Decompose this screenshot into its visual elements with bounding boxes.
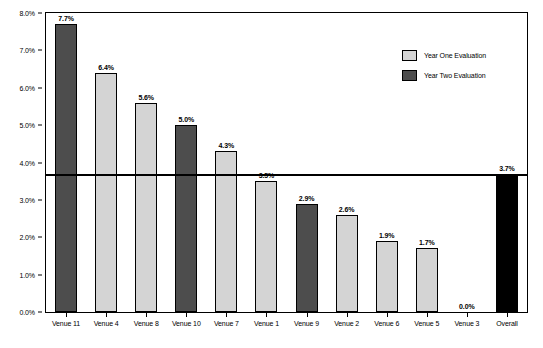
bar-value-label: 5.6% bbox=[138, 94, 154, 101]
x-tick-mark bbox=[186, 313, 187, 317]
legend-swatch-year-one bbox=[402, 50, 417, 61]
x-tick-label: Venue 5 bbox=[414, 320, 439, 327]
x-tick-label: Venue 9 bbox=[294, 320, 319, 327]
bar-chart: 0.0%1.0%2.0%3.0%4.0%5.0%6.0%7.0%8.0% 7.7… bbox=[0, 0, 543, 348]
y-tick-label: 0.0% bbox=[19, 309, 35, 316]
x-tick-label: Overall bbox=[496, 320, 517, 327]
x-tick-mark bbox=[467, 313, 468, 317]
bar-group: 6.4% bbox=[86, 13, 126, 312]
bar-group: 2.9% bbox=[287, 13, 327, 312]
x-tick-label: Venue 11 bbox=[52, 320, 80, 327]
bar[interactable] bbox=[296, 204, 318, 312]
y-tick-mark bbox=[38, 162, 42, 163]
y-tick-label: 4.0% bbox=[19, 159, 35, 166]
x-tick-mark bbox=[347, 313, 348, 317]
bar-value-label: 2.6% bbox=[339, 206, 355, 213]
bar-group: 5.6% bbox=[126, 13, 166, 312]
y-tick-mark bbox=[38, 274, 42, 275]
bar[interactable] bbox=[496, 174, 518, 312]
y-tick-mark bbox=[38, 87, 42, 88]
legend-item-year-two: Year Two Evaluation bbox=[402, 70, 486, 81]
y-tick-mark bbox=[38, 199, 42, 200]
reference-line bbox=[45, 174, 528, 176]
x-tick-label: Venue 6 bbox=[374, 320, 399, 327]
x-tick-mark bbox=[66, 313, 67, 317]
y-tick-mark bbox=[38, 237, 42, 238]
x-tick-label: Venue 4 bbox=[94, 320, 119, 327]
legend-item-year-one: Year One Evaluation bbox=[402, 50, 486, 61]
x-tick-mark bbox=[146, 313, 147, 317]
x-axis-ticks bbox=[45, 313, 528, 317]
bar[interactable] bbox=[55, 24, 77, 312]
bar-group: 1.9% bbox=[367, 13, 407, 312]
legend-label-year-one: Year One Evaluation bbox=[424, 52, 486, 59]
bar-value-label: 0.0% bbox=[459, 303, 475, 310]
bar-group: 4.3% bbox=[206, 13, 246, 312]
y-tick-mark bbox=[38, 50, 42, 51]
bar-value-label: 5.0% bbox=[179, 116, 195, 123]
bar-value-label: 3.7% bbox=[499, 165, 515, 172]
x-tick-label: Venue 3 bbox=[454, 320, 479, 327]
bar-value-label: 7.7% bbox=[58, 15, 74, 22]
bar[interactable] bbox=[376, 241, 398, 312]
bar-value-label: 6.4% bbox=[98, 64, 114, 71]
x-tick-mark bbox=[266, 313, 267, 317]
y-tick-label: 7.0% bbox=[19, 47, 35, 54]
legend-label-year-two: Year Two Evaluation bbox=[424, 72, 486, 79]
x-tick-mark bbox=[106, 313, 107, 317]
bar-group: 7.7% bbox=[46, 13, 86, 312]
y-axis: 0.0%1.0%2.0%3.0%4.0%5.0%6.0%7.0%8.0% bbox=[0, 12, 42, 313]
y-tick-mark bbox=[38, 125, 42, 126]
y-tick-label: 2.0% bbox=[19, 234, 35, 241]
x-tick-label: Venue 1 bbox=[254, 320, 279, 327]
bar-group: 5.0% bbox=[166, 13, 206, 312]
bar[interactable] bbox=[416, 248, 438, 312]
legend-swatch-year-two bbox=[402, 70, 417, 81]
x-tick-label: Venue 7 bbox=[214, 320, 239, 327]
legend: Year One Evaluation Year Two Evaluation bbox=[402, 50, 486, 90]
y-tick-mark bbox=[38, 312, 42, 313]
y-tick-label: 3.0% bbox=[19, 196, 35, 203]
bar[interactable] bbox=[175, 125, 197, 312]
bar-value-label: 2.9% bbox=[299, 195, 315, 202]
y-tick-mark bbox=[38, 13, 42, 14]
x-axis-labels: Venue 11Venue 4Venue 8Venue 10Venue 7Ven… bbox=[45, 320, 528, 334]
bar[interactable] bbox=[336, 215, 358, 312]
x-tick-mark bbox=[507, 313, 508, 317]
y-tick-label: 8.0% bbox=[19, 10, 35, 17]
y-tick-label: 6.0% bbox=[19, 84, 35, 91]
bar-value-label: 1.7% bbox=[419, 239, 435, 246]
bar[interactable] bbox=[135, 103, 157, 312]
y-tick-label: 5.0% bbox=[19, 122, 35, 129]
bar-group: 3.7% bbox=[487, 13, 527, 312]
x-tick-label: Venue 8 bbox=[134, 320, 159, 327]
bar-group: 2.6% bbox=[327, 13, 367, 312]
x-tick-mark bbox=[387, 313, 388, 317]
x-tick-mark bbox=[307, 313, 308, 317]
bar-value-label: 1.9% bbox=[379, 232, 395, 239]
x-tick-label: Venue 10 bbox=[172, 320, 201, 327]
bar-value-label: 4.3% bbox=[219, 142, 235, 149]
bar-group: 3.5% bbox=[246, 13, 286, 312]
x-tick-mark bbox=[226, 313, 227, 317]
bar[interactable] bbox=[95, 73, 117, 312]
bar[interactable] bbox=[255, 181, 277, 312]
x-tick-mark bbox=[427, 313, 428, 317]
x-tick-label: Venue 2 bbox=[334, 320, 359, 327]
y-tick-label: 1.0% bbox=[19, 271, 35, 278]
